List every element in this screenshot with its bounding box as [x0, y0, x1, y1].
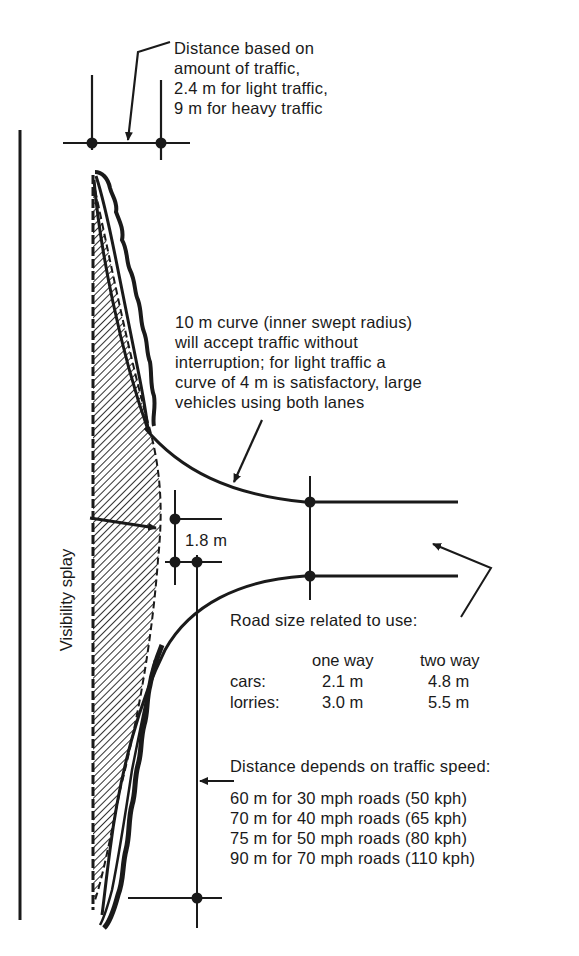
note-line: Distance based on: [174, 38, 328, 58]
traffic-distance-note: Distance based on amount of traffic, 2.4…: [174, 38, 328, 118]
dimension-node: [192, 557, 203, 568]
table-cell: 5.5 m: [414, 692, 480, 713]
road-size-title: Road size related to use:: [230, 610, 418, 630]
dimension-node: [87, 138, 98, 149]
traffic-width-leader-arrow: [128, 42, 170, 140]
table-cell: lorries:: [230, 692, 312, 713]
table-header-row: one way two way: [230, 650, 480, 671]
table-cell: cars:: [230, 671, 312, 692]
speed-distance-row: 70 m for 40 mph roads (65 kph): [230, 808, 491, 828]
road-size-table: one way two way cars: 2.1 m 4.8 m lorrie…: [230, 650, 480, 713]
note-line: amount of traffic,: [174, 58, 328, 78]
speed-distance-row: 60 m for 30 mph roads (50 kph): [230, 788, 491, 808]
dimension-node: [305, 497, 316, 508]
note-line: 2.4 m for light traffic,: [174, 78, 328, 98]
curve-note: 10 m curve (inner swept radius) will acc…: [175, 312, 422, 412]
visibility-splay-label: Visibility splay: [57, 549, 76, 651]
traffic-width-dimension: [63, 75, 190, 160]
table-cell: 4.8 m: [414, 671, 480, 692]
dimension-node: [305, 571, 316, 582]
table-header-cell: [230, 650, 312, 671]
table-header-cell: two way: [414, 650, 480, 671]
note-line: 10 m curve (inner swept radius): [175, 312, 422, 332]
table-row: cars: 2.1 m 4.8 m: [230, 671, 480, 692]
table-row: lorries: 3.0 m 5.5 m: [230, 692, 480, 713]
note-line: vehicles using both lanes: [175, 392, 422, 412]
curve-note-arrow: [234, 420, 262, 482]
visibility-splay-hatched-area: [93, 175, 161, 900]
note-line: will accept traffic without: [175, 332, 422, 352]
speed-distance-note: Distance depends on traffic speed: 60 m …: [230, 756, 491, 868]
note-line: curve of 4 m is satisfactory, large: [175, 372, 422, 392]
dimension-node: [156, 138, 167, 149]
table-cell: 3.0 m: [312, 692, 414, 713]
upper-kerb-curve: [145, 428, 458, 502]
note-line: 9 m for heavy traffic: [174, 98, 328, 118]
setback-label: 1.8 m: [185, 530, 227, 550]
dimension-node: [170, 514, 181, 525]
dimension-node: [170, 557, 181, 568]
note-line: interruption; for light traffic a: [175, 352, 422, 372]
speed-distance-row: 90 m for 70 mph roads (110 kph): [230, 848, 491, 868]
table-cell: 2.1 m: [312, 671, 414, 692]
speed-distance-row: 75 m for 50 mph roads (80 kph): [230, 828, 491, 848]
dimension-node: [192, 893, 203, 904]
table-header-cell: one way: [312, 650, 414, 671]
road-size-leader-arrow: [433, 544, 491, 617]
speed-distance-title: Distance depends on traffic speed:: [230, 756, 491, 776]
